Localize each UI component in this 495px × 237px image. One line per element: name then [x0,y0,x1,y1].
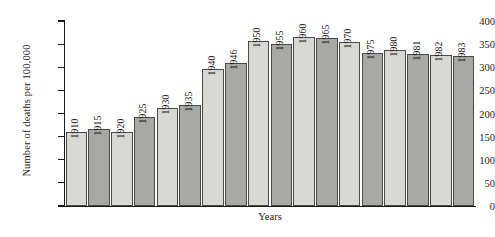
bar-label-1983: 1983 [458,43,468,63]
bar-1983 [453,56,475,206]
bar-label-1946: 1946 [230,49,240,69]
bar-1965 [316,38,338,206]
bar-label-1940: 1940 [207,56,217,76]
bar-1981 [407,54,429,206]
x-axis-title: Years [64,211,476,222]
bar-label-1982: 1982 [435,41,445,61]
bar-1946 [225,63,247,206]
bar-label-1950: 1950 [253,28,263,48]
bar-chart: Number of deaths per 100,000 05010015020… [0,0,495,237]
bar-label-1960: 1960 [298,23,308,43]
bar-1982 [430,55,452,206]
bar-label-1980: 1980 [389,37,399,57]
bar-label-1975: 1975 [367,40,377,60]
bar-label-1925: 1925 [139,104,149,124]
bar-label-1965: 1965 [321,24,331,44]
bar-1960 [293,37,315,206]
bar-1935 [179,105,201,206]
bar-label-1935: 1935 [184,92,194,112]
bar-1980 [384,50,406,206]
bar-1915 [88,129,110,206]
x-axis-line [64,206,476,207]
bar-1950 [248,41,270,206]
bar-1925 [134,117,156,206]
plot-area: 1910191519201925193019351940194619501955… [65,21,475,206]
bar-label-1920: 1920 [116,119,126,139]
y-axis-title: Number of deaths per 100,000 [21,11,32,211]
bar-1970 [339,42,361,206]
bar-label-1955: 1955 [275,31,285,51]
bar-1955 [271,44,293,206]
bar-label-1970: 1970 [344,29,354,49]
bar-1920 [111,132,133,206]
bar-label-1930: 1930 [162,95,172,115]
bar-1975 [362,53,384,206]
bar-1910 [66,132,88,206]
bar-label-1910: 1910 [70,119,80,139]
bar-1940 [202,69,224,206]
bar-1930 [157,108,179,206]
bar-label-1915: 1915 [93,116,103,136]
bar-label-1981: 1981 [412,40,422,60]
